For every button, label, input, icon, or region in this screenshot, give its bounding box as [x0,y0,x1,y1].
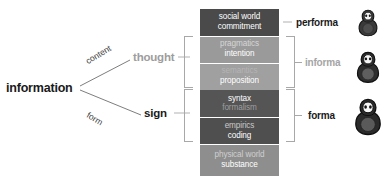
band-line2: substance [221,161,257,170]
stack-band: syntax formalism [200,90,279,117]
band-line2: formalism [222,104,257,113]
stack-band: empirics coding [200,118,279,144]
root-node-information: information [6,81,73,95]
right-label-informa: informa [305,57,340,68]
branch-node-sign: sign [144,107,167,119]
bracket-stem-forma [295,115,302,116]
right-label-forma: forma [308,110,335,121]
stack-band: pragmatics intention [200,37,279,63]
semiotic-ladder-diagram: information content form thought sign so… [0,0,388,181]
bracket-stem-informa [295,62,302,63]
band-line2: commitment [218,23,262,32]
matryoshka-forma-icon [352,98,384,142]
band-line1: physical world [214,151,264,160]
band-line1: empirics [225,122,255,131]
band-line1: social world [219,13,261,22]
matryoshka-informa-icon [354,51,382,88]
band-line2: proposition [220,77,259,86]
semiotic-stack: social world commitment pragmatics inten… [200,9,279,172]
bracket-right-forma [286,89,295,142]
stack-band: social world commitment [200,9,279,36]
band-line2: coding [228,132,252,141]
matryoshka-performa-icon [356,9,380,41]
band-line1: syntax [228,95,251,104]
bracket-right-informa [286,36,295,88]
band-line1: pragmatics [220,40,259,49]
stack-band: physical world substance [200,145,279,176]
branch-node-thought: thought [133,51,174,63]
edge-label-content: content [84,43,113,66]
stack-band: semantics proposition [200,64,279,90]
band-line1: semantics [222,67,258,76]
band-line2: intention [224,50,254,59]
bracket-left-sign [184,89,193,142]
right-label-performa: performa [296,17,338,28]
edge-label-form: form [85,110,105,127]
bracket-left-thought [184,36,193,88]
